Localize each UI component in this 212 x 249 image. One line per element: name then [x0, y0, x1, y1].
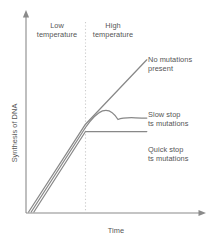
series-label-quick-stop: Quick stop ts mutations: [148, 145, 188, 163]
x-axis-arrowhead: [199, 210, 207, 216]
y-axis-arrowhead: [23, 10, 29, 18]
chart-figure: Low temperature High temperature No muta…: [0, 0, 212, 249]
phase-label-high-temperature: High temperature: [93, 21, 133, 39]
series-label-slow-stop: Slow stop ts mutations: [148, 110, 188, 128]
series-curve-slow-stop: [31, 110, 147, 212]
series-curve-quick-stop: [34, 132, 147, 213]
x-axis-label: Time: [108, 226, 124, 235]
y-axis-label: Synthesis of DNA: [10, 104, 19, 163]
series-curves-group: [29, 60, 147, 212]
series-label-no-mutations: No mutations present: [148, 55, 192, 73]
phase-label-low-temperature: Low temperature: [37, 21, 77, 39]
